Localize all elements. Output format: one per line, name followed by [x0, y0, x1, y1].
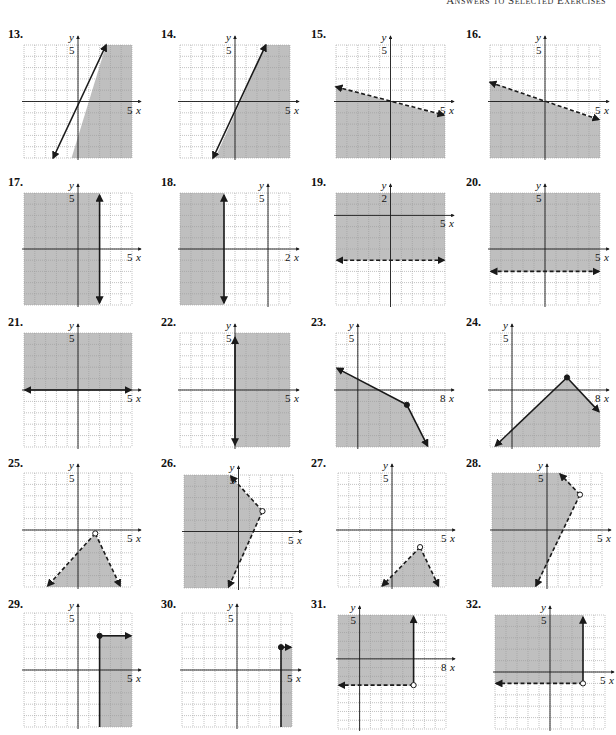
y-axis-label: y — [502, 319, 508, 331]
y-tick-label: 5 — [69, 472, 75, 484]
x-tick-label: 2 — [285, 251, 291, 263]
y-tick-label: 5 — [226, 332, 232, 344]
coordinate-graph: 8x5y — [474, 317, 616, 463]
x-axis-label: x — [603, 104, 609, 116]
coordinate-graph: 5x5y — [164, 29, 306, 174]
y-axis-label: y — [225, 31, 231, 43]
x-axis-label: x — [293, 104, 299, 116]
open-vertex-point — [580, 681, 585, 686]
open-vertex-point — [411, 683, 416, 688]
open-vertex-point — [417, 545, 422, 550]
coordinate-graph: 5x5y — [476, 457, 616, 603]
y-tick-label: 5 — [538, 472, 544, 484]
y-axis-label: y — [68, 179, 74, 191]
y-axis-label: y — [225, 319, 231, 331]
x-tick-label: 5 — [288, 534, 294, 546]
open-vertex-point — [577, 492, 582, 497]
coordinate-graph: 5x5y — [164, 317, 306, 463]
x-axis-label: x — [608, 674, 614, 686]
y-tick-label: 5 — [259, 192, 265, 204]
y-tick-label: 5 — [351, 614, 357, 626]
y-tick-label: 5 — [382, 44, 388, 56]
y-axis-label: y — [535, 179, 541, 191]
x-axis-label: x — [295, 672, 301, 684]
x-axis-label: x — [135, 392, 141, 404]
coordinate-graph: 5x5y — [8, 177, 148, 321]
open-vertex-point — [260, 509, 265, 514]
x-axis-label: x — [135, 672, 141, 684]
y-axis-label: y — [382, 459, 388, 471]
y-tick-label: 5 — [69, 332, 75, 344]
y-tick-label: 5 — [349, 332, 355, 344]
y-tick-label: 5 — [228, 612, 234, 624]
coordinate-graph: 8x5y — [322, 599, 462, 735]
x-axis-label: x — [449, 661, 455, 673]
y-axis-label: y — [381, 31, 387, 43]
y-axis-label: y — [68, 319, 74, 331]
y-axis-label: y — [227, 599, 233, 611]
y-axis-label: y — [540, 601, 546, 613]
x-tick-label: 8 — [440, 392, 446, 404]
closed-vertex-point — [564, 375, 569, 380]
y-axis-label: y — [537, 459, 543, 471]
y-axis-label: y — [258, 179, 264, 191]
y-tick-label: 5 — [69, 44, 75, 56]
y-tick-label: 5 — [541, 614, 547, 626]
x-tick-label: 5 — [127, 104, 133, 116]
x-axis-label: x — [603, 251, 609, 263]
coordinate-graph: 2x5y — [164, 177, 306, 321]
x-tick-label: 5 — [127, 672, 133, 684]
y-tick-label: 2 — [382, 192, 388, 204]
coordinate-graph: 5x5y — [8, 597, 148, 735]
closed-vertex-point — [97, 633, 102, 638]
solution-region — [281, 647, 292, 727]
coordinate-graph: 5x5y — [8, 29, 148, 174]
running-head: Answers to Selected Exercises — [446, 0, 606, 6]
x-tick-label: 5 — [595, 251, 601, 263]
coordinate-graph: 5x5y — [474, 177, 616, 321]
x-tick-label: 5 — [440, 104, 446, 116]
y-axis-label: y — [229, 461, 235, 473]
x-tick-label: 5 — [127, 532, 133, 544]
y-tick-label: 5 — [383, 472, 389, 484]
y-axis-label: y — [381, 179, 387, 191]
x-tick-label: 5 — [440, 217, 446, 229]
y-tick-label: 5 — [503, 332, 509, 344]
open-vertex-point — [93, 531, 98, 536]
coordinate-graph: 5x5y — [320, 29, 461, 174]
solution-region — [496, 377, 601, 447]
x-axis-label: x — [448, 392, 454, 404]
y-tick-label: 5 — [536, 44, 542, 56]
x-axis-label: x — [135, 104, 141, 116]
x-tick-label: 8 — [595, 392, 601, 404]
x-axis-label: x — [135, 532, 141, 544]
x-axis-label: x — [449, 532, 455, 544]
y-axis-label: y — [535, 31, 541, 43]
coordinate-graph: 5x5y — [322, 457, 462, 603]
x-tick-label: 5 — [285, 392, 291, 404]
coordinate-graph: 5x5y — [474, 29, 616, 174]
y-axis-label: y — [68, 31, 74, 43]
x-tick-label: 5 — [127, 251, 133, 263]
coordinate-graph: 5x5y — [166, 597, 308, 735]
x-axis-label: x — [293, 251, 299, 263]
closed-vertex-point — [278, 645, 283, 650]
solution-region — [336, 367, 429, 447]
coordinate-graph: 5x5y — [479, 599, 616, 735]
x-tick-label: 5 — [287, 672, 293, 684]
y-tick-label: 5 — [69, 612, 75, 624]
x-axis-label: x — [448, 217, 454, 229]
x-axis-label: x — [605, 532, 611, 544]
y-tick-label: 5 — [226, 44, 232, 56]
x-tick-label: 8 — [441, 661, 447, 673]
y-axis-label: y — [68, 599, 74, 611]
x-tick-label: 5 — [441, 532, 447, 544]
coordinate-graph: 5x5y — [8, 317, 148, 463]
coordinate-graph: 8x5y — [320, 317, 461, 463]
x-tick-label: 5 — [597, 532, 603, 544]
x-axis-label: x — [293, 392, 299, 404]
x-tick-label: 5 — [595, 104, 601, 116]
y-tick-label: 5 — [69, 192, 75, 204]
y-axis-label: y — [350, 601, 356, 613]
x-axis-label: x — [603, 392, 609, 404]
